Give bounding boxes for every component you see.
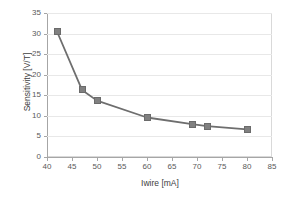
- x-tick: [47, 158, 48, 161]
- x-tick: [272, 158, 273, 161]
- chart-container: 40455055606570758085 05101520253035 Iwir…: [0, 0, 293, 198]
- x-tick: [172, 158, 173, 161]
- data-point-marker: [94, 97, 101, 104]
- gridline-horizontal: [47, 34, 272, 35]
- data-point-marker: [204, 123, 211, 130]
- gridline-horizontal: [47, 116, 272, 117]
- y-tick: [44, 34, 47, 35]
- x-tick: [197, 158, 198, 161]
- x-tick: [247, 158, 248, 161]
- y-tick: [44, 116, 47, 117]
- y-tick-label: 35: [21, 8, 41, 17]
- x-tick: [72, 158, 73, 161]
- y-axis-title: Sensitivity [V/T]: [22, 22, 32, 142]
- y-tick: [44, 13, 47, 14]
- x-tick: [222, 158, 223, 161]
- y-tick: [44, 75, 47, 76]
- x-axis-title: Iwire [mA]: [47, 178, 273, 188]
- gridline-horizontal: [47, 75, 272, 76]
- y-tick: [44, 54, 47, 55]
- data-point-marker: [189, 121, 196, 128]
- plot-area: [47, 13, 272, 157]
- gridline-horizontal: [47, 54, 272, 55]
- gridline-horizontal: [47, 95, 272, 96]
- data-point-marker: [244, 126, 251, 133]
- y-tick: [44, 136, 47, 137]
- data-point-marker: [54, 28, 61, 35]
- gridline-horizontal: [47, 136, 272, 137]
- x-tick: [147, 158, 148, 161]
- y-tick-label: 0: [21, 152, 41, 161]
- data-point-marker: [144, 114, 151, 121]
- x-tick: [122, 158, 123, 161]
- y-tick: [44, 95, 47, 96]
- x-tick-label: 85: [257, 162, 287, 172]
- gridline-horizontal: [47, 13, 272, 14]
- x-axis-line: [47, 157, 273, 158]
- data-point-marker: [79, 86, 86, 93]
- y-tick: [44, 157, 47, 158]
- x-tick: [97, 158, 98, 161]
